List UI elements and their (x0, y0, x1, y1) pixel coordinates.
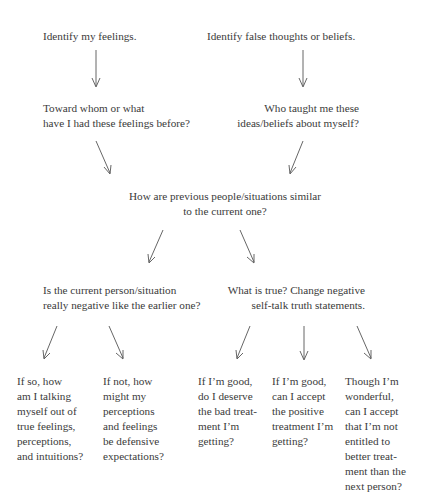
arrow-icon (236, 326, 250, 359)
node-text: ideas/beliefs about myself? (236, 116, 359, 131)
arrow-icon (299, 50, 307, 87)
arrow-icon (240, 230, 254, 263)
node-text: and feelings (103, 419, 164, 434)
node-text: treatment I’m (272, 419, 333, 434)
node-text: really negative like the earlier one? (43, 298, 200, 313)
node-if-not: If not, how might my perceptions and fee… (103, 374, 164, 464)
node-how-similar: How are previous people/situations simil… (100, 189, 350, 219)
arrow-icon (289, 141, 303, 174)
node-text: Toward whom or what (43, 101, 190, 116)
node-text: the bad treat- (198, 404, 257, 419)
node-if-good-positive: If I’m good, can I accept the positive t… (272, 374, 333, 449)
arrow-icon (92, 50, 100, 87)
node-text: myself out of (17, 404, 83, 419)
node-text: am I talking (17, 389, 83, 404)
node-if-good-bad: If I’m good, do I deserve the bad treat-… (198, 374, 257, 449)
node-text: better treat- (345, 449, 406, 464)
node-text: Identify false thoughts or beliefs. (207, 29, 355, 44)
node-text: Though I’m (345, 374, 406, 389)
node-text: getting? (198, 434, 257, 449)
node-text: ment I’m (198, 419, 257, 434)
node-text: ment than the (345, 464, 406, 479)
node-text: perceptions (103, 404, 164, 419)
node-who-taught: Who taught me these ideas/beliefs about … (236, 101, 359, 131)
node-text: can I accept (272, 389, 333, 404)
node-text: have I had these feelings before? (43, 116, 190, 131)
node-text: If so, how (17, 374, 83, 389)
arrow-icon (148, 230, 163, 263)
node-text: can I accept (345, 404, 406, 419)
node-text: that I’m not (345, 419, 406, 434)
node-text: do I deserve (198, 389, 257, 404)
arrow-icon (300, 326, 308, 360)
node-text: be defensive (103, 434, 164, 449)
node-toward-whom: Toward whom or what have I had these fee… (43, 101, 190, 131)
node-text: to the current one? (100, 204, 350, 219)
node-text: If I’m good, (272, 374, 333, 389)
arrow-icon (96, 141, 111, 174)
node-text: What is true? Change negative (222, 283, 365, 298)
node-identify-feelings: Identify my feelings. (43, 29, 137, 44)
node-text: If I’m good, (198, 374, 257, 389)
node-text: next person? (345, 479, 406, 494)
node-text: the positive (272, 404, 333, 419)
node-text: expectations? (103, 449, 164, 464)
node-text: Who taught me these (236, 101, 359, 116)
arrow-icon (43, 326, 57, 359)
node-text: true feelings, (17, 419, 83, 434)
node-text: getting? (272, 434, 333, 449)
node-text: might my (103, 389, 164, 404)
node-text: perceptions, (17, 434, 83, 449)
node-text: and intuitions? (17, 449, 83, 464)
node-text: Identify my feelings. (43, 29, 137, 44)
node-if-so: If so, how am I talking myself out of tr… (17, 374, 83, 464)
node-text: wonderful, (345, 389, 406, 404)
node-identify-false-thoughts: Identify false thoughts or beliefs. (207, 29, 355, 44)
node-text: Is the current person/situation (43, 283, 200, 298)
node-text: How are previous people/situations simil… (100, 189, 350, 204)
arrow-icon (357, 326, 371, 359)
node-text: self-talk truth statements. (222, 298, 365, 313)
node-what-is-true: What is true? Change negative self-talk … (222, 283, 365, 313)
node-text: entitled to (345, 434, 406, 449)
node-is-negative: Is the current person/situation really n… (43, 283, 200, 313)
node-though-wonderful: Though I’m wonderful, can I accept that … (345, 374, 406, 494)
arrow-icon (109, 326, 123, 359)
node-text: If not, how (103, 374, 164, 389)
